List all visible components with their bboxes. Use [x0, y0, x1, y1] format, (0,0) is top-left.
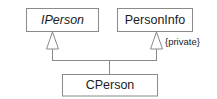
class-box-cperson[interactable]: CPerson: [63, 75, 158, 97]
generalization-connectors: [53, 49, 157, 75]
class-box-personinfo[interactable]: PersonInfo: [118, 9, 193, 32]
generalization-arrowhead-icon-left: [47, 32, 59, 49]
arrowheads: [47, 32, 163, 49]
class-name-personinfo: PersonInfo: [125, 13, 186, 27]
class-name-iperson: IPerson: [41, 13, 84, 27]
generalization-arrowhead-icon-right: [151, 32, 163, 49]
class-name-cperson: CPerson: [86, 78, 135, 92]
uml-class-diagram: IPerson PersonInfo CPerson {private}: [0, 0, 217, 99]
constraint-label-private: {private}: [165, 36, 200, 47]
uml-diagram-canvas: IPerson PersonInfo CPerson {private}: [0, 0, 217, 99]
class-box-iperson[interactable]: IPerson: [27, 9, 99, 32]
